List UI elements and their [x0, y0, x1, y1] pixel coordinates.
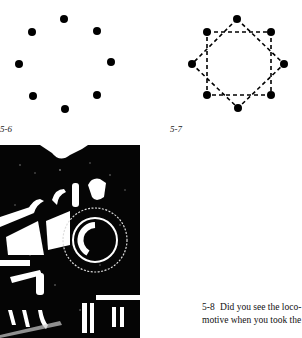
figure-5-7-star [0, 0, 302, 130]
dashed-square [207, 32, 271, 95]
locomotive-illustration [0, 145, 140, 338]
dot [267, 28, 275, 36]
dot [203, 91, 211, 99]
dot [267, 91, 275, 99]
figure-5-8-caption: 5-8 Did you see the loco- motive when yo… [202, 301, 302, 327]
dot [234, 104, 242, 112]
dot [280, 60, 288, 68]
caption-text-line-2: motive when you took the [202, 314, 302, 327]
caption-number: 5-8 [202, 302, 215, 312]
dot [233, 15, 241, 23]
dot [203, 28, 211, 36]
caption-text-line-1: Did you see the loco- [220, 302, 301, 312]
dot [188, 60, 196, 68]
figure-5-7-label: 5-7 [170, 124, 182, 134]
